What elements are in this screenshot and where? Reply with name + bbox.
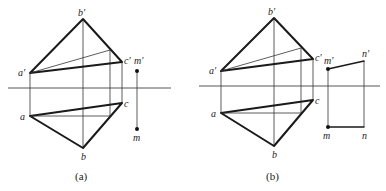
label-b-prime: b′ [78, 7, 86, 18]
label-a-prime: a′ [18, 67, 26, 78]
label-a-prime: a′ [209, 65, 217, 76]
triangle-front-view-b [221, 18, 313, 71]
point-m-b [326, 125, 330, 129]
triangle-top-view-a [30, 103, 122, 148]
label-b: b [81, 151, 86, 162]
label-c-prime: c′ [315, 52, 322, 63]
label-b: b [272, 149, 277, 160]
panel-b: b′ a′ c′ m′ n′ a b c m n (b) [199, 6, 380, 183]
label-c: c [315, 95, 320, 106]
label-a: a [211, 108, 216, 119]
triangle-front-view-a [30, 19, 122, 73]
label-c: c [124, 98, 129, 109]
point-m-a [135, 127, 139, 131]
caption-a: (a) [75, 170, 88, 183]
label-b-prime: b′ [268, 6, 276, 17]
label-a: a [20, 111, 25, 122]
point-m-prime-b [326, 67, 330, 71]
label-n-prime: n′ [362, 48, 370, 59]
point-m-prime-a [135, 69, 139, 73]
label-m: m [133, 132, 140, 143]
label-c-prime: c′ [124, 55, 131, 66]
triangle-top-view-b [221, 100, 313, 146]
label-n: n [362, 130, 367, 141]
caption-b: (b) [266, 170, 279, 183]
label-m-prime: m′ [324, 55, 334, 66]
label-m: m [323, 130, 330, 141]
panel-a: b′ a′ c′ m′ a b c m (a) [8, 7, 171, 183]
label-m-prime: m′ [134, 55, 144, 66]
projection-diagram: b′ a′ c′ m′ a b c m (a) b′ a′ c′ m′ [0, 0, 386, 191]
